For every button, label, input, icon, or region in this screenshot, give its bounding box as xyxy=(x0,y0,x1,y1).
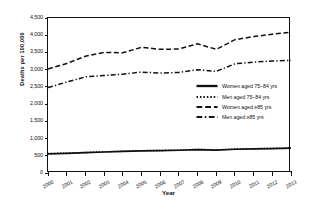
legend-item: Men aged 75–84 yrs xyxy=(196,91,288,101)
legend-item: Men aged ≥85 yrs xyxy=(196,112,288,122)
y-tick-label: 4,500 xyxy=(30,14,43,20)
legend-label: Men aged ≥85 yrs xyxy=(222,114,264,120)
legend-item: Women aged 75–84 yrs xyxy=(196,81,288,91)
y-tick-label: 3,500 xyxy=(30,48,43,54)
y-tick-label: 4,000 xyxy=(30,31,43,37)
legend-line-swatch xyxy=(196,113,218,121)
y-tick-label: 1,000 xyxy=(30,135,43,141)
y-tick-label: 1,500 xyxy=(30,117,43,123)
y-tick-label: 2,000 xyxy=(30,100,43,106)
y-tick-label: 3,000 xyxy=(30,66,43,72)
legend-line-swatch xyxy=(196,82,218,90)
legend-label: Women aged ≥85 yrs xyxy=(222,104,271,110)
legend-item: Women aged ≥85 yrs xyxy=(196,102,288,112)
chart-legend: Women aged 75–84 yrsMen aged 75–84 yrsWo… xyxy=(196,81,288,123)
y-tick-label: 500 xyxy=(34,152,43,158)
chart-figure: Deaths per 100,000 05001,0001,5002,0002,… xyxy=(0,0,314,208)
legend-label: Women aged 75–84 yrs xyxy=(222,83,277,89)
y-tick-label: 2,500 xyxy=(30,83,43,89)
legend-line-swatch xyxy=(196,103,218,111)
x-axis-title: Year xyxy=(47,189,290,196)
series-line xyxy=(48,32,291,69)
legend-line-swatch xyxy=(196,93,218,101)
y-axis-title: Deaths per 100,000 xyxy=(19,0,25,119)
y-tick-label: 0 xyxy=(40,169,43,175)
legend-label: Men aged 75–84 yrs xyxy=(222,94,269,100)
